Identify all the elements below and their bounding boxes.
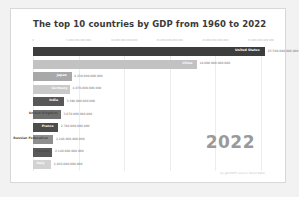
bar-category-label: China [182, 61, 192, 65]
bar-value-label: 2,780,000,000,000 [61, 124, 90, 128]
bar-value-label: 18,000,000,000,000 [200, 61, 231, 65]
x-tick-label: 5,000,000,000,000 [66, 39, 91, 42]
bar-value-label: 3,390,000,000,000 [66, 99, 95, 103]
bar[interactable] [33, 60, 197, 69]
bar-value-label: 2,240,000,000,000 [56, 137, 85, 141]
bar-value-label: 3,070,000,000,000 [63, 112, 92, 116]
x-tick-label: 10,000,000,000,000 [111, 39, 137, 42]
bar-category-label: United States [235, 48, 260, 52]
bar-row[interactable]: France2,780,000,000,000 [33, 123, 279, 132]
bar-row[interactable]: Germany4,070,000,000,000 [33, 85, 279, 94]
x-tick-label: 15,000,000,000,000 [156, 39, 182, 42]
bar-value-label: 4,230,000,000,000 [74, 74, 103, 78]
bar-value-label: 2,140,000,000,000 [55, 149, 84, 153]
bar-row[interactable]: Italy2,010,000,000,000 [33, 160, 279, 169]
bar-category-label: United Kingdom [29, 111, 58, 115]
bar-category-label: Italy [37, 161, 45, 165]
bar-row[interactable]: Japan4,230,000,000,000 [33, 72, 279, 81]
bar-value-label: 25,500,000,000,000 [268, 49, 298, 53]
bar[interactable] [33, 47, 265, 56]
x-tick-label: 25,000,000,000,000 [248, 39, 274, 42]
bar-category-label: Germany [51, 86, 67, 90]
bar-category-label: Japan [57, 73, 67, 77]
bar-category-label: Russian Federation [13, 136, 48, 140]
year-watermark: 2022 [206, 132, 255, 152]
bar-value-label: 4,070,000,000,000 [73, 86, 102, 90]
bar-row[interactable]: United Kingdom3,070,000,000,000 [33, 110, 279, 119]
bar-row[interactable]: China18,000,000,000,000 [33, 60, 279, 69]
bar-category-label: France [42, 124, 54, 128]
bar-category-label: Canada [36, 149, 49, 153]
bar-row[interactable]: United States25,500,000,000,000 [33, 47, 279, 56]
x-tick-label: 20,000,000,000,000 [202, 39, 228, 42]
bar-value-label: 2,010,000,000,000 [54, 162, 83, 166]
bar-category-label: India [49, 98, 58, 102]
page-title: The top 10 countries by GDP from 1960 to… [33, 19, 266, 29]
chart-card: The top 10 countries by GDP from 1960 to… [10, 8, 286, 183]
chart-credit: by @CTWTT source: World Bank [220, 171, 265, 175]
bar-row[interactable]: India3,390,000,000,000 [33, 97, 279, 106]
x-tick-label: 0 [32, 39, 34, 42]
